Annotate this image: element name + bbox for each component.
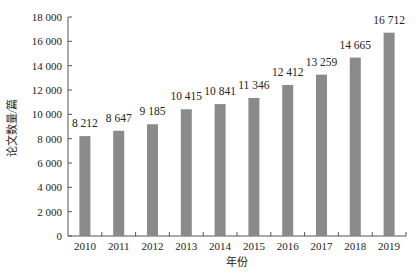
bar-2010 (79, 136, 90, 236)
data-label: 12 412 (272, 66, 304, 78)
y-axis-title: 论文数量/篇 (5, 99, 18, 157)
y-tick-label: 14 000 (32, 60, 63, 72)
y-tick-label: 6 000 (37, 157, 62, 169)
data-label: 11 346 (238, 79, 269, 91)
x-tick-label: 2019 (378, 240, 401, 252)
data-label: 8 647 (106, 112, 132, 124)
bar-2012 (147, 124, 158, 236)
x-tick-label: 2016 (277, 240, 300, 252)
y-tick-label: 18 000 (32, 11, 63, 23)
x-tick-label: 2014 (209, 240, 232, 252)
y-tick-label: 4 000 (37, 181, 62, 193)
x-tick-label: 2013 (175, 240, 198, 252)
bar-2013 (181, 109, 192, 236)
bar-2017 (316, 75, 327, 236)
y-tick-label: 12 000 (32, 84, 63, 96)
data-label: 10 415 (170, 90, 202, 102)
bar-2019 (384, 33, 395, 236)
y-tick-label: 8 000 (37, 133, 62, 145)
data-label: 13 259 (306, 56, 338, 68)
bar-2015 (248, 98, 259, 236)
data-label: 8 212 (72, 117, 98, 129)
data-label: 14 665 (339, 39, 371, 51)
bar-2014 (215, 104, 226, 236)
data-label: 9 185 (140, 105, 166, 117)
x-tick-label: 2017 (311, 240, 334, 252)
y-tick-label: 10 000 (32, 108, 63, 120)
bars (79, 33, 394, 236)
x-tick-label: 2012 (142, 240, 164, 252)
y-tick-label: 2 000 (37, 206, 62, 218)
y-tick-label: 0 (57, 230, 63, 242)
data-label: 16 712 (373, 14, 405, 26)
x-axis-title: 年份 (226, 255, 248, 268)
bar-2016 (282, 85, 293, 236)
bar-2011 (113, 131, 124, 236)
y-tick-label: 16 000 (32, 35, 63, 47)
x-tick-label: 2011 (108, 240, 130, 252)
x-tick-label: 2018 (344, 240, 367, 252)
x-tick-label: 2015 (243, 240, 266, 252)
data-label: 10 841 (204, 85, 236, 97)
x-tick-label: 2010 (74, 240, 97, 252)
bar-chart: 02 0004 0006 0008 00010 00012 00014 0001… (0, 0, 416, 279)
y-axis: 02 0004 0006 0008 00010 00012 00014 0001… (32, 11, 72, 242)
bar-2018 (350, 58, 361, 236)
